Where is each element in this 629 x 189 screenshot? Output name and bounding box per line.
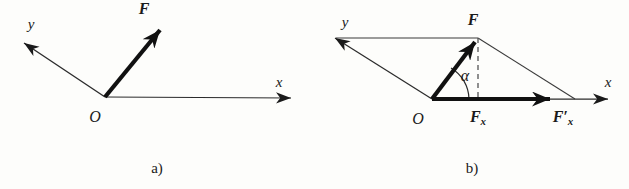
panel-b-angle-label: α [461,68,469,84]
panel-b-graphics [335,38,608,99]
panel-b-force-label: F [468,12,479,28]
panel-b-component-prime-label: F′x [553,109,574,127]
panel-b-caption: b) [466,161,479,176]
panel-b-component-subscript: x [481,115,486,127]
panel-b-component-label: Fx [470,109,486,127]
panel-a-force-vector [105,30,160,97]
panel-a-graphics [24,30,291,98]
panel-b-y-axis [335,38,432,99]
panel-b-x-axis-label: x [605,75,612,90]
panel-a-force-label: F [139,1,150,17]
panel-a-x-axis-label: x [276,75,283,90]
panel-a-caption: a) [151,161,163,176]
vector-decomposition-figure: y x O F a) y x O F α Fx F′x b) [0,0,629,189]
panel-b-y-axis-label: y [342,15,349,30]
panel-b-component-base: F [470,108,481,125]
panel-b-parallelogram-right-side [478,38,575,99]
panel-b-component-prime-subscript: x [568,115,573,127]
panel-a-y-axis [24,43,105,97]
panel-a-y-axis-label: y [28,17,35,32]
panel-a-origin-label: O [89,109,101,125]
panel-a-x-axis [105,97,291,98]
panel-b-origin-label: O [412,111,424,127]
figure-canvas [0,0,629,189]
panel-b-component-prime-base: F [553,108,564,125]
